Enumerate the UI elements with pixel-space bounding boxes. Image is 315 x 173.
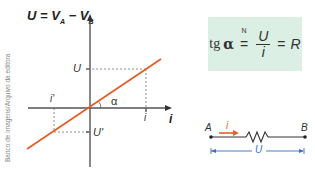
dimension-arrow-right-icon xyxy=(299,149,304,153)
tick-label-i: i xyxy=(144,112,146,123)
x-axis-arrow-icon xyxy=(165,105,172,111)
resistance-symbol: R xyxy=(291,36,301,52)
numerator: U xyxy=(256,29,270,45)
current-arrow-icon xyxy=(233,130,239,136)
node-b-dot xyxy=(303,135,307,139)
formula-box: tg α N= U i = R xyxy=(208,17,302,71)
numeric-superscript: N xyxy=(242,27,247,34)
denominator: i xyxy=(262,45,265,60)
node-b-label: B xyxy=(301,122,308,133)
node-a-label: A xyxy=(205,122,212,133)
tick-label-u-prime: U' xyxy=(93,126,103,138)
equals-symbol: = xyxy=(240,36,248,52)
ohm-law-formula: tg α N= U i = R xyxy=(208,17,302,71)
voltage-label: U xyxy=(255,144,262,155)
angle-alpha-label: α xyxy=(111,95,117,107)
current-label: i xyxy=(226,120,228,131)
y-axis-arrow-icon xyxy=(87,14,93,21)
numeric-equality: N= xyxy=(240,36,248,52)
angle-arc xyxy=(99,102,101,108)
x-axis-label: i xyxy=(169,112,172,126)
resistor-icon xyxy=(246,132,268,142)
node-a-dot xyxy=(209,135,213,139)
alpha-symbol: α xyxy=(223,36,234,52)
dimension-arrow-left-icon xyxy=(211,149,216,153)
fraction: U i xyxy=(256,29,270,60)
equals-sign-2: = xyxy=(277,36,285,52)
tangent-fn: tg xyxy=(209,36,220,52)
tick-label-u: U xyxy=(73,62,81,74)
tick-label-i-prime: i' xyxy=(50,93,54,104)
